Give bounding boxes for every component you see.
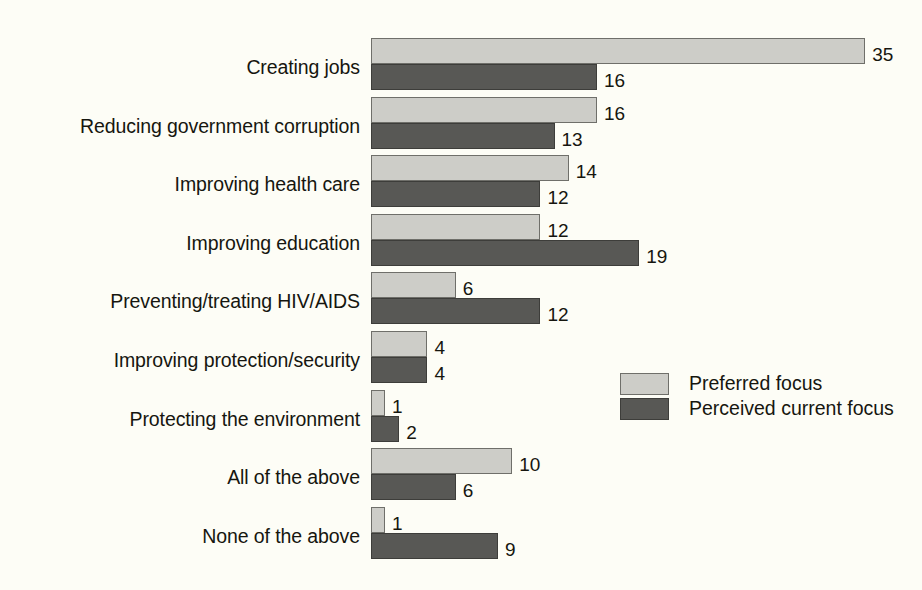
bar-preferred-focus [371, 214, 540, 240]
category-label: Preventing/treating HIV/AIDS [0, 292, 360, 312]
bar-perceived-current-focus [371, 123, 555, 149]
bar-preferred-focus [371, 507, 385, 533]
bar-value-label: 16 [604, 71, 625, 90]
bar-value-label: 6 [463, 481, 474, 500]
category-label: Protecting the environment [0, 410, 360, 430]
bar-preferred-focus [371, 331, 427, 357]
bar-value-label: 14 [576, 162, 597, 181]
bar-value-label: 6 [463, 279, 474, 298]
bar-perceived-current-focus [371, 474, 456, 500]
bar-perceived-current-focus [371, 64, 597, 90]
bar-preferred-focus [371, 272, 456, 298]
category-label: Improving protection/security [0, 351, 360, 371]
legend-swatch-preferred-focus [620, 373, 669, 395]
bar-perceived-current-focus [371, 533, 498, 559]
bar-perceived-current-focus [371, 181, 540, 207]
category-label: Reducing government corruption [0, 117, 360, 137]
bar-value-label: 1 [392, 397, 403, 416]
bar-value-label: 13 [562, 130, 583, 149]
bar-perceived-current-focus [371, 240, 639, 266]
bar-perceived-current-focus [371, 416, 399, 442]
bar-value-label: 1 [392, 514, 403, 533]
bar-value-label: 4 [434, 338, 445, 357]
bar-value-label: 12 [547, 305, 568, 324]
legend-swatch-perceived-current-focus [620, 398, 669, 420]
category-label: All of the above [0, 468, 360, 488]
bar-value-label: 12 [547, 221, 568, 240]
bar-perceived-current-focus [371, 357, 427, 383]
bar-value-label: 2 [406, 423, 417, 442]
legend-item-perceived-current-focus: Perceived current focus [620, 396, 910, 421]
category-axis-labels: Creating jobsReducing government corrupt… [0, 0, 360, 590]
bar-perceived-current-focus [371, 298, 540, 324]
bar-value-label: 9 [505, 540, 516, 559]
legend-label-preferred-focus: Preferred focus [689, 374, 822, 394]
bar-value-label: 35 [872, 45, 893, 64]
bar-value-label: 12 [547, 188, 568, 207]
plot-area: 3516161314121219612441210619 [371, 0, 922, 590]
bar-value-label: 19 [646, 247, 667, 266]
bar-value-label: 16 [604, 104, 625, 123]
chart-legend: Preferred focus Perceived current focus [620, 371, 910, 421]
legend-label-perceived-current-focus: Perceived current focus [689, 399, 894, 419]
category-label: None of the above [0, 527, 360, 547]
bar-value-label: 4 [434, 364, 445, 383]
category-label: Improving health care [0, 175, 360, 195]
bar-value-label: 10 [519, 455, 540, 474]
legend-item-preferred-focus: Preferred focus [620, 371, 910, 396]
category-label: Improving education [0, 234, 360, 254]
bar-preferred-focus [371, 97, 597, 123]
bar-preferred-focus [371, 448, 512, 474]
category-label: Creating jobs [0, 58, 360, 78]
bar-chart: Creating jobsReducing government corrupt… [0, 0, 922, 590]
bar-preferred-focus [371, 38, 865, 64]
bar-preferred-focus [371, 155, 569, 181]
bar-preferred-focus [371, 390, 385, 416]
